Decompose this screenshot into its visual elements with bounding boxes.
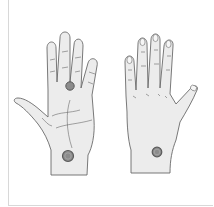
marker-wrist-palm bbox=[63, 151, 74, 162]
marker-wrist-back bbox=[152, 147, 162, 157]
marker-finger-base bbox=[66, 82, 74, 90]
hands-illustration bbox=[0, 0, 214, 207]
palm-hand bbox=[14, 32, 97, 175]
